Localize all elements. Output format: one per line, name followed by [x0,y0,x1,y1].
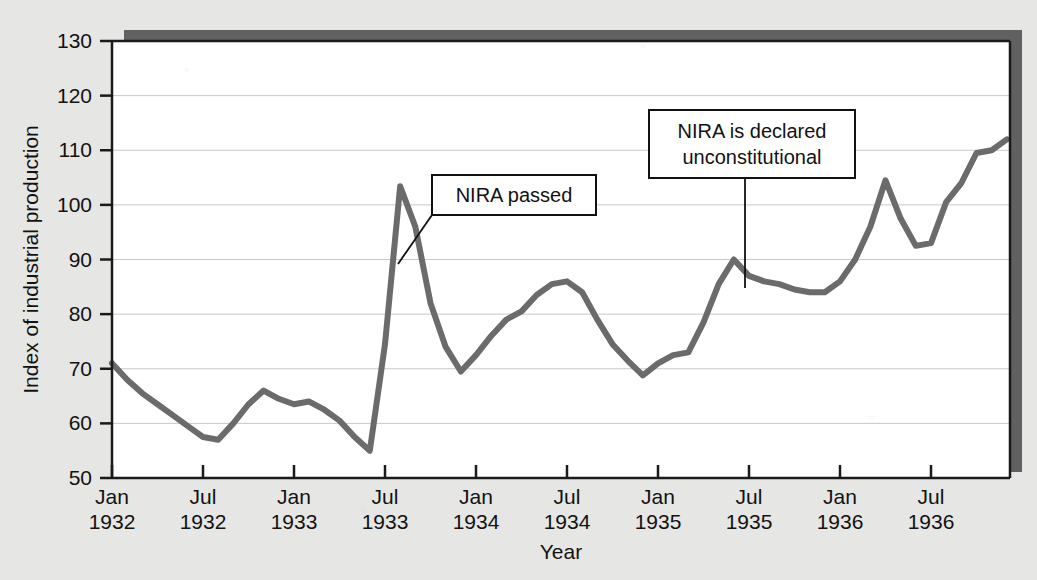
x-tick-label-month-1: Jul [190,485,217,508]
x-tick-label-month-9: Jul [918,485,945,508]
annotation-text-nira-unconstitutional-line-0: NIRA is declared [678,120,827,142]
x-tick-label-month-2: Jan [277,485,311,508]
y-tick-label-70: 70 [69,357,92,380]
x-axis-title: Year [540,540,582,563]
y-tick-label-100: 100 [57,193,92,216]
y-tick-label-90: 90 [69,248,92,271]
x-tick-label-year-3: 1933 [362,510,409,533]
x-tick-label-month-8: Jan [823,485,857,508]
x-tick-label-year-0: 1932 [89,510,136,533]
x-tick-label-month-4: Jan [459,485,493,508]
annotation-text-nira-unconstitutional-line-1: unconstitutional [683,146,822,168]
x-tick-label-year-5: 1934 [544,510,591,533]
x-tick-label-month-7: Jul [736,485,763,508]
x-tick-label-year-7: 1935 [726,510,773,533]
annotation-text-nira-passed-line-0: NIRA passed [456,184,573,206]
x-tick-label-year-1: 1932 [180,510,227,533]
y-tick-label-120: 120 [57,84,92,107]
y-axis-ticks: 5060708090100110120130 [57,29,112,489]
x-tick-label-month-3: Jul [372,485,399,508]
chart-figure: 5060708090100110120130Jan1932Jul1932Jan1… [0,0,1037,580]
y-tick-label-80: 80 [69,302,92,325]
x-tick-label-month-6: Jan [641,485,675,508]
x-tick-label-month-5: Jul [554,485,581,508]
x-tick-label-year-4: 1934 [453,510,500,533]
industrial-production-line-chart: 5060708090100110120130Jan1932Jul1932Jan1… [0,0,1037,580]
x-tick-label-year-2: 1933 [271,510,318,533]
y-tick-label-110: 110 [59,138,92,161]
x-tick-label-month-0: Jan [95,485,129,508]
y-axis-title: Index of industrial production [19,125,42,394]
x-tick-label-year-9: 1936 [908,510,955,533]
y-tick-label-130: 130 [57,29,92,52]
x-tick-label-year-8: 1936 [817,510,864,533]
y-tick-label-50: 50 [69,466,92,489]
y-tick-label-60: 60 [69,411,92,434]
x-tick-label-year-6: 1935 [635,510,682,533]
